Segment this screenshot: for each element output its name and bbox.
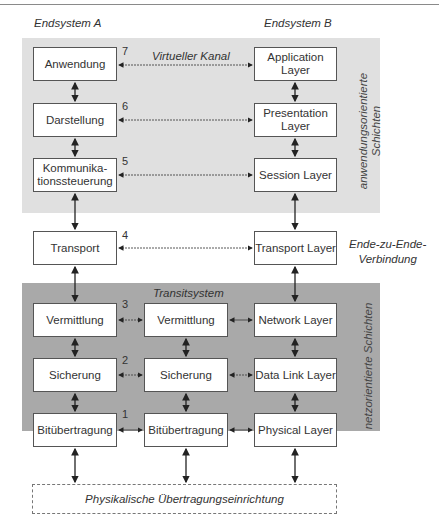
connector-arrows [0,0,439,529]
